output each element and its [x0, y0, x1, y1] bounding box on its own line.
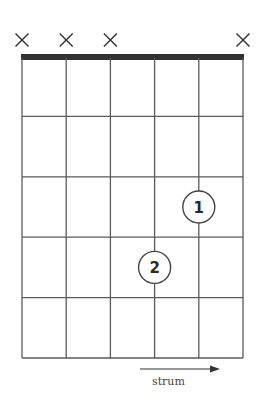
mute-x-icon — [104, 34, 117, 47]
chord-diagram: 12 strum — [0, 0, 258, 405]
mute-x-icon — [16, 34, 29, 47]
nut — [21, 54, 244, 60]
finger-number: 1 — [194, 199, 204, 217]
strum-arrow — [140, 366, 220, 373]
finger-number: 2 — [149, 259, 159, 277]
strum-arrow-head — [210, 366, 220, 373]
mute-x-icon — [237, 34, 250, 47]
mute-x-icon — [60, 34, 73, 47]
string-markers — [16, 34, 250, 47]
finger-dot: 2 — [139, 251, 171, 283]
finger-dot: 1 — [183, 191, 215, 223]
strum-label: strum — [152, 375, 185, 388]
